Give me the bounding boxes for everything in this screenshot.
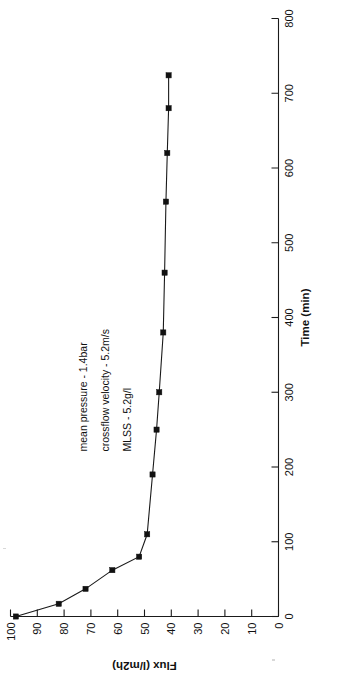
annotation-crossflow-velocity: crossflow velocity - 5.2m/s bbox=[98, 328, 110, 451]
figure-canvas: 0100200300400500600700800 01020304050607… bbox=[0, 0, 346, 683]
x-tick-label: 500 bbox=[282, 233, 294, 251]
data-point-marker bbox=[136, 554, 141, 559]
data-point-marker bbox=[163, 199, 168, 204]
flux-vs-time-chart: 0100200300400500600700800 01020304050607… bbox=[0, 0, 346, 683]
y-tick-label: 30 bbox=[192, 622, 204, 634]
x-tick-label: 800 bbox=[282, 9, 294, 27]
y-tick-label: 50 bbox=[138, 622, 150, 634]
data-point-marker bbox=[82, 586, 87, 591]
data-point-marker bbox=[144, 531, 149, 536]
data-point-marker bbox=[13, 613, 18, 618]
y-tick-label: 60 bbox=[111, 622, 123, 634]
y-tick-label: 90 bbox=[31, 622, 43, 634]
x-tick-label: 200 bbox=[282, 457, 294, 475]
data-point-marker bbox=[166, 72, 171, 77]
y-tick-label: 70 bbox=[84, 622, 96, 634]
data-point-marker bbox=[166, 105, 171, 110]
annotation-mlss: MLSS - 5.2g/l bbox=[120, 387, 132, 451]
data-point-marker bbox=[56, 601, 61, 606]
x-tick-label: 400 bbox=[282, 308, 294, 326]
rotated-chart-wrapper: 0100200300400500600700800 01020304050607… bbox=[0, 0, 346, 683]
data-point-marker bbox=[164, 150, 169, 155]
x-axis-ticks bbox=[271, 18, 278, 616]
y-axis-ticks bbox=[10, 609, 278, 616]
x-tick-label: 300 bbox=[282, 383, 294, 401]
annotation-group: mean pressure - 1.4barcrossflow velocity… bbox=[76, 328, 132, 451]
y-tick-label: 0 bbox=[272, 622, 284, 628]
x-axis-tick-labels: 0100200300400500600700800 bbox=[282, 9, 294, 619]
data-point-marker bbox=[153, 427, 158, 432]
data-point-marker bbox=[156, 389, 161, 394]
flux-series-markers bbox=[13, 72, 171, 618]
y-axis-tick-labels: 0102030405060708090100 bbox=[4, 622, 284, 640]
x-tick-label: 600 bbox=[282, 158, 294, 176]
y-tick-label: 20 bbox=[218, 622, 230, 634]
y-tick-label: 40 bbox=[165, 622, 177, 634]
annotation-mean-pressure: mean pressure - 1.4bar bbox=[76, 341, 88, 451]
x-tick-label: 100 bbox=[282, 532, 294, 550]
data-point-marker bbox=[109, 567, 114, 572]
data-point-marker bbox=[162, 270, 167, 275]
y-tick-label: 10 bbox=[245, 622, 257, 634]
x-tick-label: 0 bbox=[282, 613, 294, 619]
data-point-marker bbox=[160, 329, 165, 334]
data-point-marker bbox=[149, 471, 154, 476]
y-tick-label: 100 bbox=[4, 622, 16, 640]
x-axis-title: Time (min) bbox=[298, 288, 310, 346]
x-tick-label: 700 bbox=[282, 84, 294, 102]
y-axis-title: Flux (l/m2h) bbox=[112, 659, 177, 671]
y-tick-label: 80 bbox=[58, 622, 70, 634]
